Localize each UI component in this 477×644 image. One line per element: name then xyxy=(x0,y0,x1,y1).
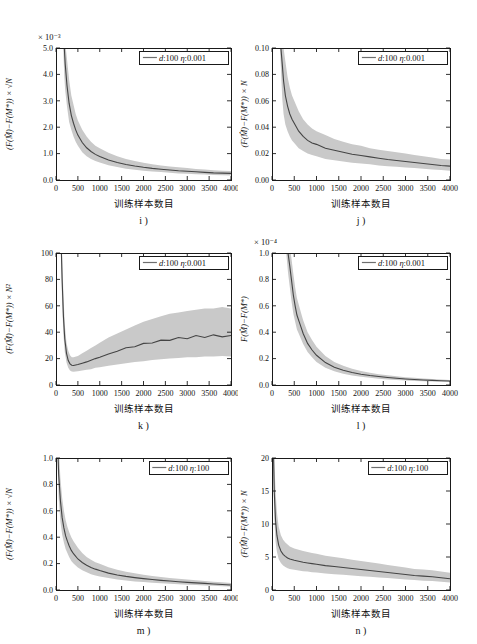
x-tick-label: 3000 xyxy=(398,389,414,398)
y-tick-label: 0.8 xyxy=(43,480,53,489)
y-tick-label: 0.6 xyxy=(43,507,53,516)
legend-label: d:100 η:0.001 xyxy=(159,258,206,268)
x-tick-label: 3000 xyxy=(179,594,195,603)
y-tick-label: 0.0 xyxy=(43,176,53,185)
x-axis-label: 训练样本数目 xyxy=(114,608,174,619)
x-tick-label: 1000 xyxy=(92,594,108,603)
series-group xyxy=(286,231,450,382)
y-tick-label: 20 xyxy=(45,354,53,363)
x-tick-label: 0 xyxy=(54,184,58,193)
axes-frame xyxy=(56,458,231,590)
legend-label: d:100 η:100 xyxy=(387,463,428,473)
x-tick-label: 2500 xyxy=(375,594,391,603)
x-tick-label: 2000 xyxy=(353,184,369,193)
x-tick-label: 3500 xyxy=(201,594,217,603)
legend: d:100 η:0.001 xyxy=(140,51,228,64)
x-tick-label: 4000 xyxy=(223,184,238,193)
y-tick-label: 0 xyxy=(49,381,53,390)
x-tick-label: 1500 xyxy=(114,184,130,193)
legend-label: d:100 η:0.001 xyxy=(159,53,206,63)
x-tick-label: 1500 xyxy=(114,389,130,398)
y-tick-label: 0.00 xyxy=(255,176,269,185)
legend: d:100 η:0.001 xyxy=(140,256,228,269)
plot-i: 050010001500200025003000350040000.01.02.… xyxy=(0,26,238,231)
x-tick-label: 2500 xyxy=(157,594,173,603)
subplot-caption: l ) xyxy=(357,420,366,432)
x-tick-label: 3500 xyxy=(201,184,217,193)
y-tick-label: 3.0 xyxy=(43,97,53,106)
x-tick-label: 0 xyxy=(270,389,274,398)
y-tick-label: 1.0 xyxy=(259,249,269,258)
legend-label: d:100 η:100 xyxy=(168,463,209,473)
subplot-caption: j ) xyxy=(356,215,366,227)
y-axis-label: (F(M̂)−F(M*)) × N² xyxy=(4,284,14,354)
y-tick-label: 0.04 xyxy=(255,123,269,132)
x-tick-label: 3000 xyxy=(179,184,195,193)
subplot-i: 050010001500200025003000350040000.01.02.… xyxy=(0,26,239,231)
y-tick-label: 4.0 xyxy=(43,70,53,79)
x-axis-label: 训练样本数目 xyxy=(331,608,391,619)
y-tick-label: 0 xyxy=(265,586,269,595)
y-tick-label: 20 xyxy=(261,454,269,463)
x-tick-label: 1000 xyxy=(309,389,325,398)
y-tick-label: 40 xyxy=(45,328,53,337)
subplot-caption: k ) xyxy=(138,420,149,432)
y-tick-label: 2.0 xyxy=(43,123,53,132)
x-tick-label: 1500 xyxy=(331,389,347,398)
x-tick-label: 4000 xyxy=(442,594,458,603)
y-tick-label: 0.06 xyxy=(255,97,269,106)
y-tick-label: 0.4 xyxy=(259,328,269,337)
y-axis-label: F(M̂)−F(M*) xyxy=(239,296,249,343)
x-tick-label: 4000 xyxy=(442,389,458,398)
y-tick-label: 80 xyxy=(45,275,53,284)
x-tick-label: 2000 xyxy=(353,389,369,398)
mean-line xyxy=(286,233,450,381)
x-tick-label: 0 xyxy=(54,594,58,603)
y-tick-label: 1.0 xyxy=(43,149,53,158)
x-tick-label: 0 xyxy=(270,594,274,603)
x-tick-label: 3000 xyxy=(179,389,195,398)
subplot-caption: m ) xyxy=(137,625,151,637)
x-tick-label: 1000 xyxy=(309,594,325,603)
x-tick-label: 3500 xyxy=(420,389,436,398)
x-tick-label: 3500 xyxy=(420,184,436,193)
y-tick-label: 0.8 xyxy=(259,275,269,284)
plot-j: 050010001500200025003000350040000.000.02… xyxy=(239,26,477,231)
axis-offset-label: × 10⁻⁴ xyxy=(254,237,277,247)
x-tick-label: 2500 xyxy=(375,184,391,193)
x-tick-label: 3000 xyxy=(398,594,414,603)
axes-frame xyxy=(56,48,231,180)
x-tick-label: 500 xyxy=(288,594,300,603)
legend-label: d:100 η:0.001 xyxy=(378,258,425,268)
confidence-band xyxy=(286,231,450,382)
subplot-caption: i ) xyxy=(139,215,148,227)
x-tick-label: 4000 xyxy=(223,389,238,398)
y-axis-label: (F(M̂)−F(M*)) × √N xyxy=(4,487,14,560)
y-tick-label: 0.0 xyxy=(43,586,53,595)
x-axis-label: 训练样本数目 xyxy=(331,198,391,209)
y-tick-label: 1.0 xyxy=(43,454,53,463)
x-tick-label: 3500 xyxy=(201,389,217,398)
x-tick-label: 1500 xyxy=(331,184,347,193)
x-tick-label: 1000 xyxy=(309,184,325,193)
y-tick-label: 0.0 xyxy=(259,381,269,390)
x-tick-label: 2000 xyxy=(136,594,152,603)
x-tick-label: 500 xyxy=(288,184,300,193)
y-axis-label: (F(M̂)−F(M*)) × N xyxy=(239,79,249,148)
y-tick-label: 100 xyxy=(41,249,53,258)
x-tick-label: 500 xyxy=(288,389,300,398)
x-tick-label: 500 xyxy=(72,184,84,193)
x-tick-label: 0 xyxy=(270,184,274,193)
confidence-band xyxy=(61,233,231,372)
subplot-j: 050010001500200025003000350040000.000.02… xyxy=(239,26,477,231)
x-tick-label: 2500 xyxy=(157,389,173,398)
x-axis-label: 训练样本数目 xyxy=(114,403,174,414)
x-tick-label: 4000 xyxy=(442,184,458,193)
y-tick-label: 0.2 xyxy=(259,354,269,363)
x-tick-label: 2000 xyxy=(136,389,152,398)
x-tick-label: 2500 xyxy=(157,184,173,193)
x-tick-label: 4000 xyxy=(223,594,238,603)
y-axis-label: (F(M̂)−F(M*)) × √N xyxy=(4,77,14,150)
x-tick-label: 2000 xyxy=(353,594,369,603)
x-tick-label: 3500 xyxy=(420,594,436,603)
